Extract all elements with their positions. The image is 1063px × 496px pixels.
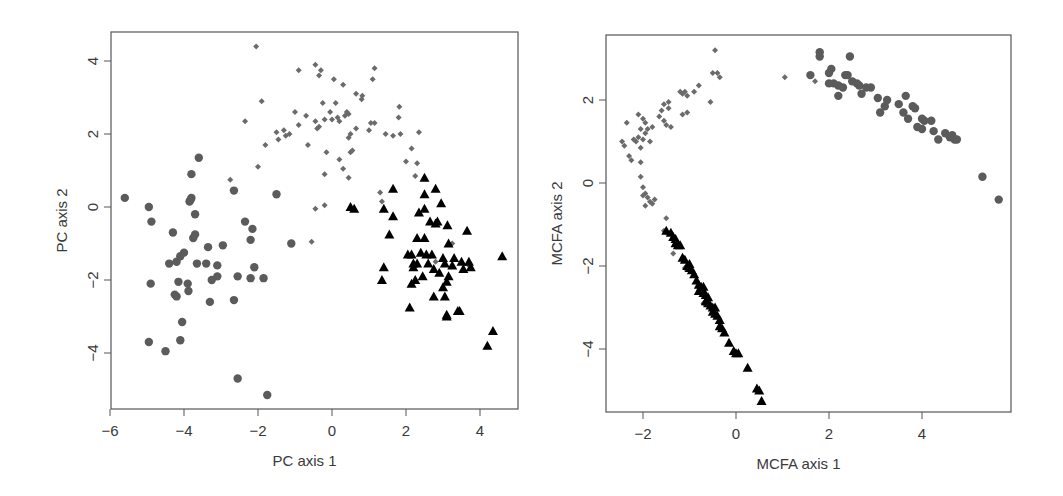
circle-point <box>867 83 875 91</box>
diamond-point <box>275 136 281 142</box>
circle-point <box>187 194 195 202</box>
circle-point <box>978 173 986 181</box>
circle-point <box>147 279 155 287</box>
circle-point <box>195 154 203 162</box>
diamond-point <box>666 105 672 111</box>
circle-point <box>178 318 186 326</box>
diamond-point <box>320 100 326 106</box>
diamond-point <box>396 115 402 121</box>
triangle-point <box>418 271 428 280</box>
circle-point <box>191 230 199 238</box>
diamond-point <box>638 126 644 132</box>
circle-point <box>180 248 188 256</box>
diamond-point <box>372 120 378 126</box>
circle-point <box>174 278 182 286</box>
pc-scatter-plot: −6−4−2024−4−2024PC axis 1PC axis 2 <box>53 32 518 469</box>
circle-point <box>834 92 842 100</box>
circle-point <box>248 225 256 233</box>
y-axis-title: MCFA axis 2 <box>548 181 565 265</box>
triangle-point <box>420 204 430 213</box>
triangle-point <box>420 233 430 242</box>
diamond-point <box>312 118 318 124</box>
diamond-point <box>377 189 383 195</box>
triangle-point <box>431 184 441 193</box>
x-tick-label: 0 <box>328 422 336 439</box>
circle-point <box>176 336 184 344</box>
diamond-point <box>262 142 268 148</box>
circle-point <box>904 114 912 122</box>
x-tick-label: 2 <box>402 422 410 439</box>
diamond-point <box>624 120 630 126</box>
series-group-diamond <box>227 43 472 268</box>
circle-point <box>169 228 177 236</box>
diamond-point <box>812 78 818 84</box>
diamond-point <box>397 131 403 137</box>
circle-point <box>204 243 212 251</box>
diamond-point <box>638 174 644 180</box>
diamond-point <box>416 129 422 135</box>
diamond-point <box>638 159 644 165</box>
triangle-point <box>743 363 753 372</box>
circle-point <box>883 96 891 104</box>
triangle-point <box>482 341 492 350</box>
circle-point <box>147 217 155 225</box>
y-tick-label: −4 <box>579 340 596 357</box>
circle-point <box>230 186 238 194</box>
diamond-point <box>379 199 385 205</box>
y-tick-label: 0 <box>84 203 101 211</box>
triangle-point <box>379 204 389 213</box>
y-tick-label: −2 <box>579 257 596 274</box>
diamond-point <box>353 126 359 132</box>
series-group-circle <box>806 48 1003 204</box>
circle-point <box>191 210 199 218</box>
circle-point <box>241 217 249 225</box>
circle-point <box>927 117 935 125</box>
x-axis-title: MCFA axis 1 <box>756 455 840 472</box>
triangle-point <box>440 291 450 300</box>
triangle-point <box>438 253 448 262</box>
triangle-point <box>757 396 767 405</box>
triangle-point <box>379 262 389 271</box>
circle-point <box>213 272 221 280</box>
y-tick-label: 4 <box>84 57 101 65</box>
circle-point <box>806 71 814 79</box>
circle-point <box>272 190 280 198</box>
diamond-point <box>396 104 402 110</box>
diamond-point <box>331 76 337 82</box>
diamond-point <box>696 82 702 88</box>
circle-point <box>184 279 192 287</box>
triangle-point <box>724 338 734 347</box>
triangle-point <box>388 184 398 193</box>
circle-point <box>193 259 201 267</box>
diamond-point <box>340 82 346 88</box>
circle-point <box>874 94 882 102</box>
diamond-point <box>312 62 318 68</box>
x-tick-label: −2 <box>634 425 651 442</box>
x-axis-title: PC axis 1 <box>272 452 336 469</box>
y-tick-label: −4 <box>84 344 101 361</box>
diamond-point <box>412 173 418 179</box>
diamond-point <box>414 160 420 166</box>
x-tick-label: 4 <box>918 425 926 442</box>
circle-point <box>233 272 241 280</box>
diamond-point <box>255 164 261 170</box>
diamond-point <box>340 166 346 172</box>
diamond-point <box>383 131 389 137</box>
circle-point <box>187 170 195 178</box>
circle-point <box>230 296 238 304</box>
x-tick-label: 2 <box>825 425 833 442</box>
diamond-point <box>292 109 298 115</box>
diamond-point <box>433 259 439 265</box>
diamond-point <box>638 145 644 151</box>
circle-point <box>121 194 129 202</box>
circle-point <box>145 203 153 211</box>
y-tick-label: 2 <box>579 96 596 104</box>
diamond-point <box>296 122 302 128</box>
diamond-point <box>390 133 396 139</box>
circle-point <box>918 125 926 133</box>
triangle-point <box>420 173 430 182</box>
diamond-point <box>691 89 697 95</box>
triangle-point <box>442 310 452 319</box>
circle-point <box>213 261 221 269</box>
diamond-point <box>640 184 646 190</box>
